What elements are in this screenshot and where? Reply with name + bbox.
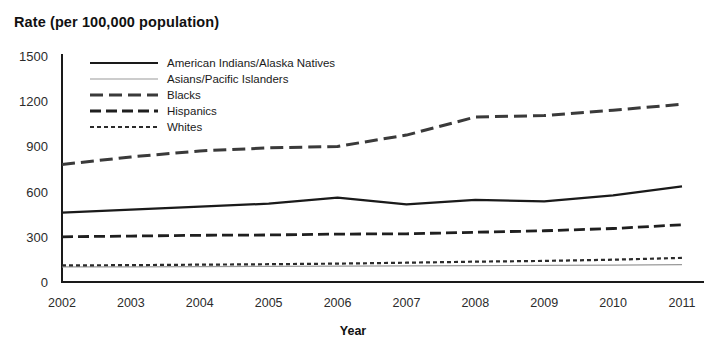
legend-item: Hispanics bbox=[90, 104, 335, 118]
legend-line-swatch bbox=[90, 89, 158, 101]
line-chart: Rate (per 100,000 population) 0300600900… bbox=[0, 0, 706, 350]
legend-item: American Indians/Alaska Natives bbox=[90, 56, 335, 70]
x-tick-label: 2004 bbox=[186, 296, 214, 310]
x-tick-label: 2002 bbox=[48, 296, 76, 310]
x-axis-label: Year bbox=[0, 324, 706, 338]
x-tick-label: 2009 bbox=[530, 296, 558, 310]
legend-item: Whites bbox=[90, 120, 335, 134]
x-tick-label: 2011 bbox=[669, 296, 696, 310]
legend-item-label: Blacks bbox=[167, 89, 201, 101]
x-tick-label: 2005 bbox=[255, 296, 283, 310]
x-tick-label: 2006 bbox=[324, 296, 352, 310]
series-line-0 bbox=[62, 186, 682, 212]
series-line-4 bbox=[62, 258, 682, 266]
legend-line-swatch bbox=[90, 73, 158, 85]
legend-line-swatch bbox=[90, 121, 158, 133]
legend-item-label: Hispanics bbox=[167, 105, 217, 117]
legend-line-swatch bbox=[90, 105, 158, 117]
x-tick-label: 2010 bbox=[599, 296, 627, 310]
x-tick-label: 2003 bbox=[117, 296, 145, 310]
x-tick-label: 2007 bbox=[393, 296, 421, 310]
legend-item-label: American Indians/Alaska Natives bbox=[167, 57, 335, 69]
legend-item: Blacks bbox=[90, 88, 335, 102]
series-line-3 bbox=[62, 225, 682, 237]
x-tick-label: 2008 bbox=[461, 296, 489, 310]
chart-legend: American Indians/Alaska NativesAsians/Pa… bbox=[90, 56, 335, 134]
legend-line-swatch bbox=[90, 57, 158, 69]
legend-item-label: Whites bbox=[167, 121, 202, 133]
legend-item: Asians/Pacific Islanders bbox=[90, 72, 335, 86]
legend-item-label: Asians/Pacific Islanders bbox=[167, 73, 288, 85]
